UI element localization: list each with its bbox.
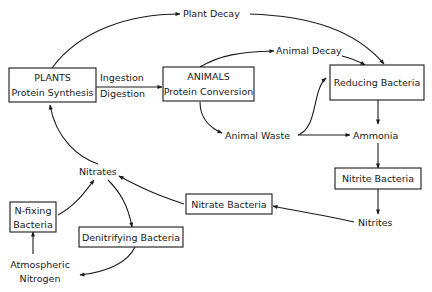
nitrite-bacteria-label: Nitrite Bacteria <box>342 173 414 184</box>
edge-nitrate-bacteria-to-nitrates <box>119 176 184 204</box>
plants-subtitle: Protein Synthesis <box>11 87 93 98</box>
edge-animals-to-animal-waste <box>200 102 222 133</box>
edge-animal-decay-to-reducing-bacteria <box>342 56 365 65</box>
plants-title: PLANTS <box>34 72 71 83</box>
animal-decay-label: Animal Decay <box>276 45 342 56</box>
nitrates-label: Nitrates <box>79 166 117 177</box>
denitrifying-bacteria-label: Denitrifying Bacteria <box>82 232 180 243</box>
node-animals: ANIMALS Protein Conversion <box>163 67 254 101</box>
reducing-bacteria-label: Reducing Bacteria <box>334 77 421 88</box>
ammonia-label: Ammonia <box>353 130 398 141</box>
ingestion-label: Ingestion <box>100 72 144 83</box>
edge-nitrites-to-nitrate-bacteria <box>273 206 354 222</box>
edge-n-fixing-to-nitrates <box>58 180 94 215</box>
node-denitrifying-bacteria: Denitrifying Bacteria <box>79 227 183 247</box>
atmospheric-nitrogen-line2: Nitrogen <box>20 273 61 284</box>
n-fixing-line1: N-fixing <box>15 205 52 216</box>
animals-title: ANIMALS <box>187 71 229 82</box>
animals-subtitle: Protein Conversion <box>164 86 254 97</box>
nitrites-label: Nitrites <box>358 217 393 228</box>
atmospheric-nitrogen-line1: Atmospheric <box>10 259 70 270</box>
edge-animals-to-animal-decay <box>200 51 274 67</box>
edge-plants-to-plant-decay <box>52 14 180 68</box>
node-plants: PLANTS Protein Synthesis <box>9 68 96 102</box>
digestion-label: Digestion <box>100 88 145 99</box>
node-nitrite-bacteria: Nitrite Bacteria <box>335 168 421 189</box>
edge-nitrates-to-denitrifying-bacteria <box>108 180 132 227</box>
edge-nitrates-to-plants <box>50 105 98 164</box>
n-fixing-line2: Bacteria <box>13 219 53 230</box>
nitrate-bacteria-label: Nitrate Bacteria <box>191 199 266 210</box>
plant-decay-label: Plant Decay <box>183 8 240 19</box>
nitrogen-cycle-diagram: PLANTS Protein Synthesis Ingestion Diges… <box>0 0 432 292</box>
node-n-fixing-bacteria: N-fixing Bacteria <box>10 202 56 232</box>
node-reducing-bacteria: Reducing Bacteria <box>330 65 424 100</box>
animal-waste-label: Animal Waste <box>225 130 290 141</box>
node-nitrate-bacteria: Nitrate Bacteria <box>186 194 272 214</box>
edge-plant-decay-to-reducing-bacteria <box>250 14 384 64</box>
edge-animal-waste-to-reducing-bacteria <box>298 78 326 135</box>
edge-denitrifying-to-atmospheric-nitrogen <box>80 247 135 275</box>
